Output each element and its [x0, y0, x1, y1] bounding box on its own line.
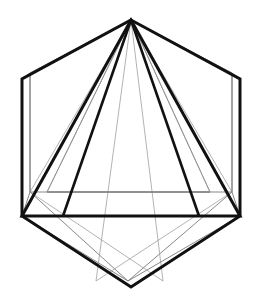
figure-canvas: [0, 0, 267, 299]
polyhedron-line-drawing: [0, 0, 267, 299]
canvas-background: [0, 0, 267, 299]
